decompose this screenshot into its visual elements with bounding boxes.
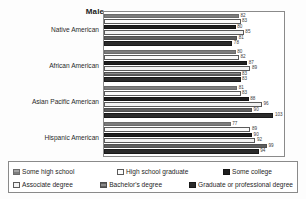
- bar-value-label: 82: [240, 53, 245, 60]
- category-label: Native American: [0, 26, 99, 33]
- legend-item-graduate-degree: Graduate or professional degree: [189, 181, 293, 188]
- bar-row: 94: [104, 149, 285, 154]
- bar-value-label: 88: [250, 95, 255, 102]
- bar-row: 90: [104, 108, 285, 113]
- bar: [104, 108, 252, 113]
- bar-value-label: 94: [260, 147, 265, 154]
- bar: [104, 127, 250, 132]
- legend-swatch-icon: [100, 182, 107, 188]
- bar: [104, 113, 273, 118]
- bar-value-label: 83: [242, 17, 247, 24]
- bar-row: 82: [104, 14, 285, 19]
- legend-label: Bachelor's degree: [109, 181, 162, 188]
- bar: [104, 144, 267, 149]
- bar-row: 92: [104, 138, 285, 143]
- bar: [104, 133, 252, 138]
- chart-container: Male Native AmericanAfrican AmericanAsia…: [0, 0, 306, 199]
- bar-row: 87: [104, 61, 285, 66]
- category-axis: Native AmericanAfrican AmericanAsian Pac…: [0, 11, 101, 157]
- legend-label: High school graduate: [126, 168, 188, 175]
- legend-item-high-school-graduate: High school graduate: [117, 168, 223, 175]
- bar: [104, 36, 237, 41]
- bar-row: 103: [104, 113, 285, 118]
- legend-swatch-icon: [13, 182, 20, 188]
- bar-value-label: 80: [237, 23, 242, 30]
- legend-item-associate-degree: Associate degree: [13, 181, 100, 188]
- legend-label: Some high school: [22, 168, 74, 175]
- bar: [104, 138, 255, 143]
- bar-row: 80: [104, 25, 285, 30]
- bar-row: 81: [104, 86, 285, 91]
- legend-item-some-college: Some college: [223, 168, 293, 175]
- category-label: Hispanic American: [0, 134, 99, 141]
- bar-value-label: 96: [263, 100, 268, 107]
- bar-row: 85: [104, 30, 285, 35]
- bar-value-label: 99: [268, 142, 273, 149]
- bar-row: 81: [104, 36, 285, 41]
- bar-value-label: 89: [252, 64, 257, 71]
- category-label: African American: [0, 62, 99, 69]
- category-label: Asian Pacific American: [0, 98, 99, 105]
- bar: [104, 149, 259, 154]
- bar: [104, 86, 237, 91]
- bar-row: 83: [104, 19, 285, 24]
- bar-value-label: 83: [242, 75, 247, 82]
- legend-label: Associate degree: [22, 181, 73, 188]
- bar-value-label: 83: [242, 89, 247, 96]
- bar: [104, 14, 239, 19]
- legend-swatch-icon: [13, 169, 20, 175]
- bar-row: 83: [104, 72, 285, 77]
- bar-row: 80: [104, 50, 285, 55]
- legend-swatch-icon: [223, 169, 230, 175]
- bars-layer: 8283808581788082878983838183889690103778…: [104, 12, 285, 156]
- bar-row: 89: [104, 66, 285, 71]
- bar: [104, 25, 236, 30]
- bar-row: 99: [104, 144, 285, 149]
- bar: [104, 97, 249, 102]
- bar-value-label: 85: [245, 28, 250, 35]
- legend-row-1: Some high school High school graduate So…: [13, 165, 293, 178]
- bar-value-label: 92: [257, 136, 262, 143]
- bar-value-label: 90: [254, 106, 259, 113]
- bar-row: 83: [104, 77, 285, 82]
- legend-row-2: Associate degree Bachelor's degree Gradu…: [13, 178, 293, 191]
- bar: [104, 41, 232, 46]
- bar-row: 82: [104, 55, 285, 60]
- legend-item-some-high-school: Some high school: [13, 168, 117, 175]
- legend-label: Some college: [232, 168, 272, 175]
- bar: [104, 19, 241, 24]
- bar: [104, 72, 241, 77]
- bar: [104, 55, 239, 60]
- bar-row: 77: [104, 122, 285, 127]
- bar-row: 83: [104, 91, 285, 96]
- chart-legend: Some high school High school graduate So…: [8, 161, 298, 193]
- bar-value-label: 81: [239, 34, 244, 41]
- bar-value-label: 103: [275, 111, 283, 118]
- bar: [104, 30, 244, 35]
- bar-row: 78: [104, 41, 285, 46]
- bar: [104, 102, 262, 107]
- bar: [104, 61, 247, 66]
- bar: [104, 66, 250, 71]
- bar: [104, 91, 241, 96]
- bar-row: 88: [104, 97, 285, 102]
- bar-value-label: 77: [232, 120, 237, 127]
- bar: [104, 50, 236, 55]
- legend-swatch-icon: [117, 169, 124, 175]
- bar: [104, 122, 231, 127]
- bar: [104, 77, 241, 82]
- bar-value-label: 78: [234, 39, 239, 46]
- legend-label: Graduate or professional degree: [198, 181, 293, 188]
- legend-item-bachelors-degree: Bachelor's degree: [100, 181, 189, 188]
- legend-swatch-icon: [189, 182, 196, 188]
